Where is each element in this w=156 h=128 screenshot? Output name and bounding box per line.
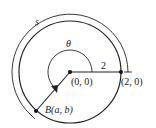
point-b-label: B(a, b) — [45, 104, 73, 116]
origin-point — [68, 70, 72, 74]
origin-label: (0, 0) — [71, 76, 93, 88]
angle-label: θ — [66, 38, 71, 49]
arc-length-arc — [12, 14, 128, 116]
start-point-label: (2, 0) — [121, 76, 143, 88]
start-point — [119, 70, 123, 74]
point-b — [34, 109, 38, 113]
unit-circle-diagram: s θ 2 (0, 0) (2, 0) B(a, b) — [0, 0, 156, 128]
arc-length-label: s — [35, 16, 39, 27]
radius-label: 2 — [101, 60, 106, 71]
arc-end-tick — [29, 113, 35, 119]
